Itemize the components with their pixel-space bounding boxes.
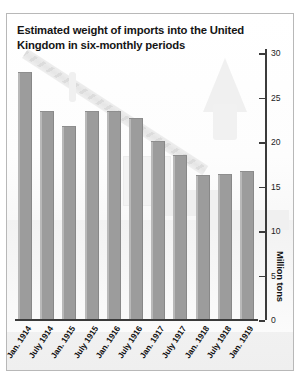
x-axis-labels: Jan. 1914July 1914Jan. 1915July 1915Jan.… — [18, 322, 254, 370]
x-axis-label-slot: Jan. 1914 — [18, 322, 32, 370]
x-axis-baseline — [15, 319, 258, 321]
bar — [107, 111, 121, 319]
y-axis-tick — [259, 187, 265, 189]
chart-figure: Estimated weight of imports into the Uni… — [6, 13, 294, 371]
x-axis-label-slot: July 1916 — [129, 322, 143, 370]
y-axis-tick — [259, 142, 265, 144]
y-axis-line — [265, 49, 267, 320]
bar — [40, 111, 54, 319]
bar — [151, 141, 165, 319]
bar — [173, 155, 187, 319]
bar — [196, 175, 210, 319]
bar — [240, 171, 254, 319]
y-axis-tick-label: 15 — [271, 182, 281, 192]
bar — [62, 126, 76, 319]
y-axis-tick — [259, 231, 265, 233]
bar-series — [18, 54, 254, 319]
x-axis-label-slot: July 1914 — [40, 322, 54, 370]
y-axis-tick-label: 0 — [271, 315, 276, 325]
y-axis-tick-label: 25 — [271, 93, 281, 103]
x-axis-label-slot: July 1915 — [85, 322, 99, 370]
x-axis-label-slot: Jan. 1915 — [62, 322, 76, 370]
x-axis-label-slot: Jan. 1916 — [107, 322, 121, 370]
y-axis-tick — [259, 276, 265, 278]
y-axis-tick — [259, 320, 265, 322]
x-axis-label-slot: Jan. 1919 — [240, 322, 254, 370]
y-axis-tick-label: 30 — [271, 48, 281, 58]
x-axis-label-slot: July 1918 — [218, 322, 232, 370]
y-axis-title: Million tons — [275, 251, 286, 302]
bar — [85, 111, 99, 319]
bar — [18, 72, 32, 319]
y-axis-tick — [259, 53, 265, 55]
y-axis-tick — [259, 98, 265, 100]
y-axis-tick-label: 10 — [271, 226, 281, 236]
plot-area: 051015202530 Jan. 1914July 1914Jan. 1915… — [7, 14, 293, 370]
bar — [129, 118, 143, 319]
x-axis-label-slot: Jan. 1917 — [151, 322, 165, 370]
x-axis-label-slot: Jan. 1918 — [196, 322, 210, 370]
y-axis-tick-label: 20 — [271, 137, 281, 147]
x-axis-label-slot: July 1917 — [173, 322, 187, 370]
bar — [218, 174, 232, 319]
